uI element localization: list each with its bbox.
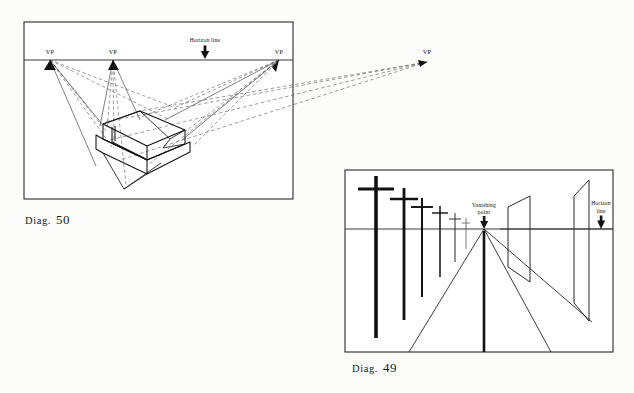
vp-label-far-right: VP [423, 48, 432, 55]
diagram-frame-50 [24, 22, 293, 199]
vp-label-center-left: VP [109, 48, 118, 55]
vp-label-left: VP [46, 48, 55, 55]
horizon-line-label-49-line1: Horizon [591, 200, 611, 206]
horizon-line-label-49-line2: line [596, 208, 606, 214]
caption-diag-49: Diag.49 [352, 360, 397, 376]
vanishing-point-label-line1: Vanishing [472, 202, 496, 208]
page-canvas: VP VP VP VP Horizon line Diag.50 [0, 0, 634, 393]
caption-50-label: Diag. [25, 215, 51, 226]
diag-49-drawing: Vanishing point Horizon line [336, 155, 634, 360]
caption-49-label: Diag. [352, 363, 378, 374]
caption-diag-50: Diag.50 [25, 212, 70, 228]
caption-49-number: 49 [383, 360, 397, 375]
horizon-line-label-50: Horizon line [190, 37, 221, 43]
vp-label-center-right: VP [275, 48, 284, 55]
diagram-frame-49 [345, 170, 613, 352]
figure-diag-49: Vanishing point Horizon line [336, 155, 634, 393]
vanishing-point-label-line2: point [478, 209, 491, 215]
caption-50-number: 50 [56, 212, 70, 227]
